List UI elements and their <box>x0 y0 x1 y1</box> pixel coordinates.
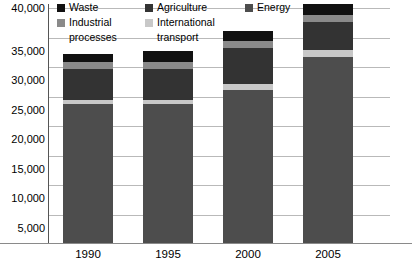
y-tick-30000: 30,000 <box>2 74 45 86</box>
legend-item-energy: Energy <box>245 1 335 16</box>
y-tick-35000: 35,000 <box>2 45 45 57</box>
bar-1990 <box>63 54 113 243</box>
bar-segment-agriculture-2000 <box>223 48 273 84</box>
bar-2000 <box>223 31 273 243</box>
y-tick-15000: 15,000 <box>2 163 45 175</box>
legend-swatch-industrial-processes <box>57 19 65 27</box>
legend-swatch-agriculture <box>145 4 153 12</box>
y-tick-5000: 5,000 <box>2 222 45 234</box>
y-tick-20000: 20,000 <box>2 133 45 145</box>
y-tick-25000: 25,000 <box>2 104 45 116</box>
y-tick-10000: 10,000 <box>2 192 45 204</box>
legend-item-waste: Waste <box>57 1 145 16</box>
x-tick-2005: 2005 <box>293 248 363 260</box>
bar-segment-agriculture-1990 <box>63 69 113 100</box>
y-tick-40000: 40,000 <box>2 2 45 14</box>
legend-item-agriculture: Agriculture <box>145 1 245 16</box>
legend-label-waste: Waste <box>69 1 98 14</box>
legend-label-energy: Energy <box>257 1 290 14</box>
x-axis-line <box>0 243 412 244</box>
legend-label-industrial-processes: Industrial <box>69 16 112 29</box>
bar-segment-energy-1995 <box>143 104 193 243</box>
bar-segment-waste-1995 <box>143 51 193 62</box>
bar-segment-energy-1990 <box>63 104 113 243</box>
legend-item-industrial-processes: Industrial <box>57 16 145 31</box>
legend-spacer-2 <box>245 31 335 45</box>
x-tick-1995: 1995 <box>133 248 203 260</box>
legend-item-international-transport: International <box>145 16 245 31</box>
legend-label-international-transport: International <box>157 16 215 29</box>
legend-label-international-transport-line2: transport <box>145 31 245 45</box>
bar-1995 <box>143 51 193 243</box>
stacked-bar-chart: Waste Agriculture Energy Industrial Inte… <box>0 0 412 273</box>
legend-label-industrial-processes-line2: processes <box>57 31 145 45</box>
legend-swatch-international-transport <box>145 19 153 27</box>
legend-spacer <box>245 16 335 31</box>
legend-swatch-energy <box>245 4 253 12</box>
legend-label-agriculture: Agriculture <box>157 1 207 14</box>
x-tick-2000: 2000 <box>213 248 283 260</box>
bar-segment-energy-2000 <box>223 90 273 243</box>
bar-segment-energy-2005 <box>303 57 353 243</box>
bar-segment-agriculture-1995 <box>143 69 193 100</box>
bar-segment-international-transport-2005 <box>303 50 353 57</box>
chart-legend: Waste Agriculture Energy Industrial Inte… <box>57 1 357 45</box>
x-tick-1990: 1990 <box>53 248 123 260</box>
y-axis-line <box>48 4 49 244</box>
legend-swatch-waste <box>57 4 65 12</box>
bar-segment-waste-1990 <box>63 54 113 62</box>
